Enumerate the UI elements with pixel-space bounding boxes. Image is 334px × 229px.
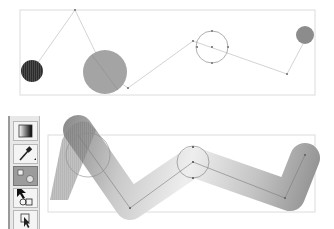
artboard-canvas[interactable] — [0, 0, 334, 229]
live-paint-selection-tool-button[interactable]: Live Paint Selection — [13, 210, 38, 229]
eyedropper-tool-button[interactable]: Eyedropper — [13, 144, 38, 164]
gradient-tool-button[interactable]: Gradient — [13, 121, 38, 141]
blend-tool-button[interactable]: Blend — [13, 166, 38, 186]
tools-panel: Gradient Eyedropper Blend Direct Selecti… — [8, 116, 40, 229]
eyedropper-icon — [14, 145, 37, 163]
live-paint-selection-icon — [14, 211, 37, 229]
blend-stroke[interactable] — [78, 130, 305, 205]
top-panel — [20, 9, 315, 95]
top-bounding-box — [20, 10, 315, 95]
dark-hatched-circle[interactable] — [21, 60, 43, 82]
gradient-icon — [14, 122, 37, 140]
bottom-panel — [48, 121, 315, 212]
small-gray-circle[interactable] — [296, 26, 314, 44]
direct-selection-tool-button[interactable]: Direct Selection — [13, 188, 38, 208]
top-spine-path[interactable] — [32, 10, 304, 88]
direct-selection-icon — [14, 189, 37, 207]
blend-icon — [14, 167, 37, 185]
